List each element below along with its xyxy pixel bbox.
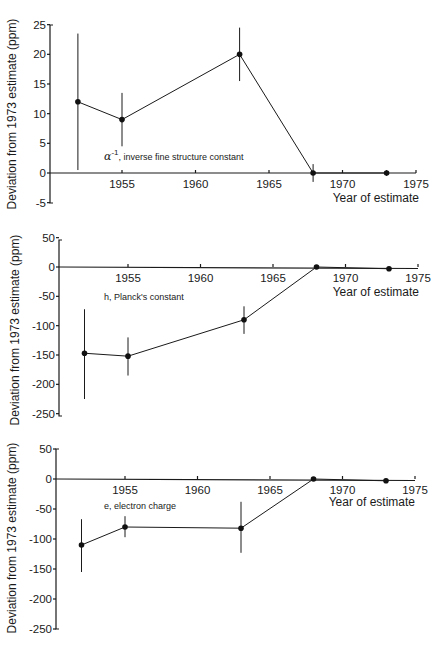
y-tick-label: -100: [29, 533, 52, 545]
data-point: [311, 476, 317, 482]
data-point: [383, 478, 389, 484]
x-tick-label: 1955: [115, 272, 141, 284]
chart-figure: 2520151050-519551960196519701975Year of …: [0, 0, 439, 645]
y-tick-label: 50: [39, 443, 52, 455]
data-point: [122, 524, 128, 530]
y-axis-title: Deviation from 1973 estimate (ppm): [5, 443, 19, 634]
x-tick-label: 1955: [109, 178, 135, 190]
y-tick-label: 15: [33, 78, 46, 90]
data-point: [237, 52, 243, 58]
x-tick-label: 1970: [333, 272, 359, 284]
y-tick-label: -150: [29, 563, 52, 575]
data-point: [384, 170, 390, 176]
y-axis: [50, 25, 53, 203]
y-tick-label: 25: [33, 19, 46, 31]
y-tick-label: -5: [36, 197, 46, 209]
y-tick-label: 0: [49, 261, 55, 273]
y-tick-label: 0: [46, 473, 52, 485]
y-axis: [56, 449, 59, 629]
y-tick-label: -200: [32, 378, 55, 390]
series-annotation: α-1, inverse fine structure constant: [104, 148, 244, 163]
data-point: [386, 266, 392, 272]
y-tick-label: 0: [40, 167, 46, 179]
y-tick-label: -100: [32, 320, 55, 332]
y-axis-title: Deviation from 1973 estimate (ppm): [5, 19, 19, 210]
data-point: [314, 264, 320, 270]
x-tick-label: 1960: [188, 272, 214, 284]
data-point: [241, 317, 247, 323]
chart-panel-3: 500-50-100-150-200-250195519601965197019…: [5, 443, 428, 635]
y-tick-label: -200: [29, 593, 52, 605]
data-point: [125, 353, 131, 359]
x-tick-label: 1960: [185, 484, 211, 496]
data-point: [238, 525, 244, 531]
y-axis-title: Deviation from 1973 estimate (ppm): [8, 235, 22, 426]
x-axis-title: Year of estimate: [333, 191, 420, 205]
y-tick-label: 10: [33, 108, 46, 120]
y-tick-label: -250: [32, 408, 55, 420]
data-point: [310, 170, 316, 176]
chart-panel-2: 500-50-100-150-200-250195519601965197019…: [8, 232, 431, 426]
data-point: [119, 117, 125, 123]
y-tick-label: -50: [35, 503, 52, 515]
chart-panel-1: 2520151050-519551960196519701975Year of …: [5, 19, 429, 210]
y-axis: [59, 240, 62, 416]
x-tick-label: 1965: [256, 178, 282, 190]
x-tick-label: 1965: [260, 272, 286, 284]
x-axis-title: Year of estimate: [333, 285, 420, 299]
data-point: [75, 99, 81, 105]
x-tick-label: 1965: [257, 484, 283, 496]
y-tick-label: 20: [33, 48, 46, 60]
x-tick-label: 1970: [330, 178, 356, 190]
y-tick-label: -150: [32, 349, 55, 361]
series-annotation: e, electron charge: [104, 501, 176, 511]
y-tick-label: -50: [38, 290, 55, 302]
series-annotation: h, Planck's constant: [104, 292, 184, 302]
x-tick-label: 1975: [405, 272, 431, 284]
x-tick-label: 1960: [183, 178, 209, 190]
y-tick-label: 50: [42, 232, 55, 244]
data-point: [79, 542, 85, 548]
x-tick-label: 1955: [112, 484, 138, 496]
data-point: [82, 350, 88, 356]
x-axis-title: Year of estimate: [329, 495, 416, 509]
y-tick-label: 5: [40, 137, 46, 149]
x-tick-label: 1975: [403, 178, 429, 190]
y-tick-label: -250: [29, 623, 52, 635]
